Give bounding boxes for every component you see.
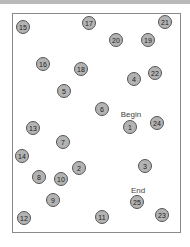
- top-bar: [0, 0, 190, 4]
- node-circle-19[interactable]: 19: [141, 33, 155, 47]
- end-label: End: [131, 186, 145, 195]
- node-circle-17[interactable]: 17: [82, 16, 96, 30]
- begin-label: Begin: [121, 110, 141, 119]
- node-circle-20[interactable]: 20: [109, 33, 123, 47]
- node-circle-1[interactable]: 1: [123, 120, 137, 134]
- node-circle-16[interactable]: 16: [36, 57, 50, 71]
- node-circle-22[interactable]: 22: [148, 66, 162, 80]
- node-circle-5[interactable]: 5: [57, 84, 71, 98]
- node-circle-3[interactable]: 3: [138, 159, 152, 173]
- node-circle-23[interactable]: 23: [155, 208, 169, 222]
- node-circle-12[interactable]: 12: [17, 211, 31, 225]
- node-circle-14[interactable]: 14: [15, 149, 29, 163]
- node-circle-4[interactable]: 4: [127, 72, 141, 86]
- node-circle-15[interactable]: 15: [16, 20, 30, 34]
- node-circle-6[interactable]: 6: [95, 102, 109, 116]
- node-circle-7[interactable]: 7: [56, 135, 70, 149]
- node-circle-11[interactable]: 11: [95, 210, 109, 224]
- node-circle-2[interactable]: 2: [72, 161, 86, 175]
- node-circle-18[interactable]: 18: [74, 62, 88, 76]
- node-circle-13[interactable]: 13: [26, 121, 40, 135]
- node-circle-8[interactable]: 8: [32, 170, 46, 184]
- node-circle-9[interactable]: 9: [46, 193, 60, 207]
- node-circle-10[interactable]: 10: [54, 172, 68, 186]
- node-circle-25[interactable]: 25: [130, 195, 144, 209]
- node-circle-24[interactable]: 24: [150, 116, 164, 130]
- node-circle-21[interactable]: 21: [158, 15, 172, 29]
